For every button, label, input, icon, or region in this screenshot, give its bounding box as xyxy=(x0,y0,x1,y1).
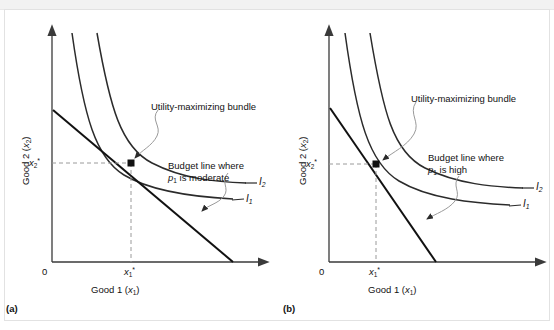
y-axis-label-a: Good 2 (x2) xyxy=(20,137,32,185)
curve-label-i1-b: I1 xyxy=(523,198,530,211)
origin-label-b: 0 xyxy=(319,266,324,278)
x-axis-label-b: Good 1 (x1) xyxy=(368,284,416,296)
y-axis-label-b: Good 2 (x2) xyxy=(297,137,309,185)
origin-label-a: 0 xyxy=(42,266,47,278)
x-optimum-tick-a: x1* xyxy=(124,266,135,278)
annotation-utility-maximizing-bundle-a: Utility-maximizing bundle xyxy=(151,101,256,113)
optimum-point-a xyxy=(128,160,135,167)
curve-label-i1-a: I1 xyxy=(246,193,253,206)
budget-line-a xyxy=(53,110,233,262)
panel-label-a: (a) xyxy=(6,303,18,315)
curve-label-i2-a: I2 xyxy=(259,176,266,189)
x-axis-label-a: Good 1 (x1) xyxy=(91,284,139,296)
optimum-point-b xyxy=(373,161,380,168)
indifference-curve-i1-b xyxy=(345,33,510,205)
annotation-budget-line-a: Budget line where p1 is moderate xyxy=(168,160,244,184)
panel-b: Utility-maximizing bundle Budget line wh… xyxy=(277,0,554,312)
curve-label-tick-i1-a xyxy=(232,199,244,200)
budget-line-b xyxy=(330,108,436,262)
annotation-budget-line-b: Budget line where p1 is high xyxy=(428,152,504,176)
panel-label-b: (b) xyxy=(283,303,295,315)
curve-label-tick-i1-b xyxy=(509,205,521,206)
leader-bundle-a xyxy=(135,110,158,158)
x-optimum-tick-b: x1* xyxy=(369,266,380,278)
curve-label-i2-b: I2 xyxy=(536,181,543,194)
leader-bundle-b xyxy=(383,102,416,160)
panel-a: Utility-maximizing bundle Budget line wh… xyxy=(0,0,277,312)
annotation-utility-maximizing-bundle-b: Utility-maximizing bundle xyxy=(411,93,516,105)
